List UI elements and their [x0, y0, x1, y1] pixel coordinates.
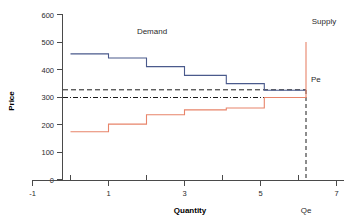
- x-tick-label-1: 1: [106, 189, 110, 198]
- chart-background: [0, 0, 348, 220]
- supply-label: Supply: [312, 17, 336, 26]
- y-axis-title: Price: [7, 91, 16, 111]
- y-tick-label-100: 100: [41, 148, 54, 157]
- demand-label: Demand: [137, 27, 167, 36]
- y-tick-label-600: 600: [41, 11, 54, 20]
- supply-demand-step-chart: 600 500 400 300 200 100 0 Price: [0, 0, 348, 220]
- chart-root: 600 500 400 300 200 100 0 Price: [0, 0, 348, 220]
- x-tick-label-7: 7: [334, 189, 338, 198]
- x-tick-label-3: 3: [182, 189, 186, 198]
- y-tick-label-400: 400: [41, 66, 54, 75]
- x-axis-title: Quantity: [174, 206, 207, 215]
- x-tick-label-minus1: -1: [29, 189, 36, 198]
- pe-label: Pe: [311, 75, 321, 84]
- y-tick-label-200: 200: [41, 121, 54, 130]
- qe-label: Qe: [301, 206, 312, 215]
- x-tick-label-5: 5: [258, 189, 262, 198]
- y-tick-label-500: 500: [41, 38, 54, 47]
- y-tick-label-300: 300: [41, 93, 54, 102]
